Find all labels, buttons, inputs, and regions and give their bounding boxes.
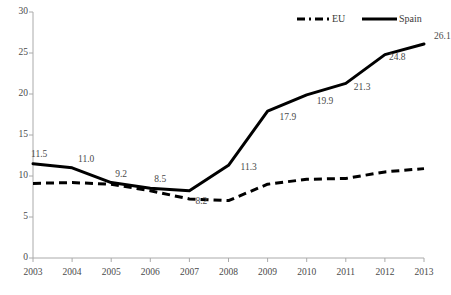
x-axis-tick-label: 2004 bbox=[55, 268, 89, 278]
x-axis-tick-label: 2012 bbox=[368, 268, 402, 278]
data-point-label: 11.5 bbox=[31, 150, 47, 160]
y-axis-tick-label: 20 bbox=[6, 89, 28, 99]
x-axis-tick-label: 2007 bbox=[172, 268, 206, 278]
legend-label-spain[interactable]: Spain bbox=[399, 14, 422, 24]
legend-label-eu[interactable]: EU bbox=[332, 14, 345, 24]
data-point-label: 21.3 bbox=[354, 83, 371, 93]
y-axis-tick-label: 0 bbox=[6, 253, 28, 263]
data-point-label: 11.0 bbox=[78, 155, 94, 165]
x-axis-tick-label: 2006 bbox=[133, 268, 167, 278]
data-point-label: 11.3 bbox=[241, 163, 257, 173]
axis-lines bbox=[29, 12, 424, 262]
series-line-spain bbox=[33, 44, 424, 191]
data-point-label: 17.9 bbox=[280, 113, 297, 123]
y-axis-tick-label: 30 bbox=[6, 7, 28, 17]
data-series bbox=[33, 44, 424, 201]
data-point-label: 24.8 bbox=[389, 53, 406, 63]
data-point-label: 9.2 bbox=[115, 170, 127, 180]
y-axis-tick-label: 25 bbox=[6, 48, 28, 58]
x-axis-tick-label: 2003 bbox=[16, 268, 50, 278]
x-axis-tick-label: 2011 bbox=[329, 268, 363, 278]
data-point-label: 8.2 bbox=[195, 197, 207, 207]
x-axis-tick-label: 2010 bbox=[290, 268, 324, 278]
x-axis-tick-label: 2005 bbox=[94, 268, 128, 278]
data-point-label: 19.9 bbox=[317, 97, 334, 107]
x-axis-tick-label: 2009 bbox=[251, 268, 285, 278]
y-axis-tick-label: 10 bbox=[6, 171, 28, 181]
data-point-label: 8.5 bbox=[154, 175, 166, 185]
data-point-label: 26.1 bbox=[434, 32, 451, 42]
y-axis-tick-label: 15 bbox=[6, 130, 28, 140]
x-axis-tick-label: 2008 bbox=[212, 268, 246, 278]
y-axis-ticks bbox=[29, 12, 33, 258]
x-axis-tick-label: 2013 bbox=[407, 268, 441, 278]
x-axis-ticks bbox=[33, 258, 424, 262]
series-line-eu bbox=[33, 169, 424, 201]
y-axis-tick-label: 5 bbox=[6, 212, 28, 222]
